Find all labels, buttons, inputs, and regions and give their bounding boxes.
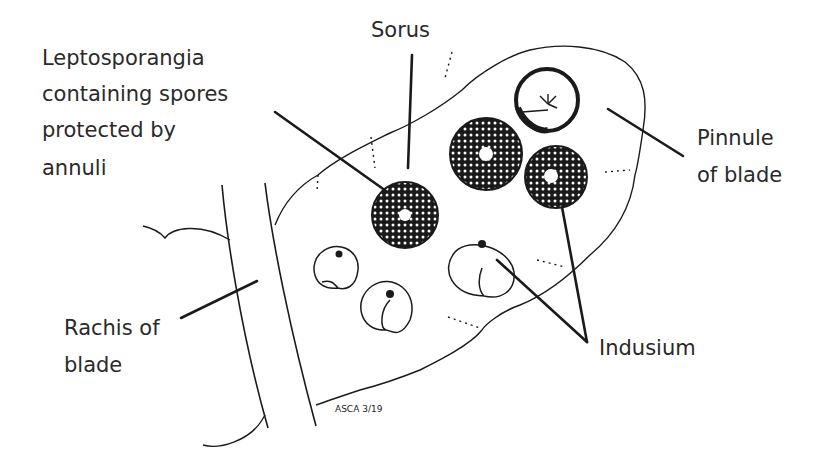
sorus-mature [372,118,587,248]
pinnule-outline [275,46,645,405]
label-indusium: Indusium [599,330,696,366]
label-leptosporangia-2: containing spores [42,76,228,112]
artist-signature: ASCA 3/19 [335,404,383,414]
label-leptosporangia-3: protected by [42,112,176,148]
label-leptosporangia-1: Leptosporangia [42,40,205,76]
sorus-partial [516,69,578,131]
label-leptosporangia-4: annuli [42,150,106,186]
rachis-leader [181,281,257,318]
label-pinnule-2: of blade [697,157,782,193]
label-pinnule-1: Pinnule [697,120,774,156]
label-sorus: Sorus [371,12,430,48]
sorus-leader [408,55,412,168]
label-rachis-1: Rachis of [64,310,160,346]
neighbour-pinnule-outline [143,226,265,446]
rachis-lines [222,183,316,428]
label-rachis-2: blade [64,347,122,383]
pinnule-leader [608,109,683,156]
indusium-young [314,245,514,333]
leptosporangia-leader [275,112,386,191]
